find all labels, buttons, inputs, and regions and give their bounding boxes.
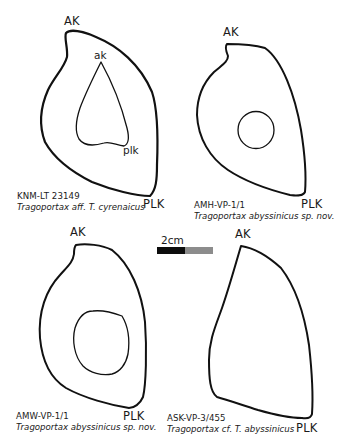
specimen-id-amw-vp-1-1: AMW-VP-1/1: [16, 412, 69, 421]
taxon-ask-vp-3-455: Tragoportax cf. T. abyssinicus: [167, 425, 294, 434]
scale-bar-black-segment: [157, 247, 185, 254]
specimen-id-amh-vp-1-1: AMH-VP-1/1: [194, 201, 245, 210]
label-plk-bottom-left: PLK: [123, 411, 144, 423]
label-plk-top-right: PLK: [301, 199, 322, 211]
label-ak-bottom-left: AK: [70, 227, 86, 239]
scale-bar-label: 2cm: [161, 235, 184, 246]
scale-bar-grey-segment: [185, 247, 213, 254]
inner-outline-amh-vp-1-1: [238, 112, 274, 149]
label-inner-plk: plk: [123, 145, 139, 156]
label-plk-top-left: PLK: [143, 199, 164, 211]
label-inner-ak: ak: [94, 50, 107, 61]
label-plk-bottom-right: PLK: [296, 423, 317, 435]
label-ak-top-right: AK: [223, 27, 239, 39]
label-ak-top-left: AK: [64, 16, 80, 28]
taxon-amw-vp-1-1: Tragoportax abyssinicus sp. nov.: [16, 423, 156, 432]
horn-core-cross-sections: [0, 0, 337, 448]
outline-amh-vp-1-1: [197, 44, 305, 196]
specimen-id-ask-vp-3-455: ASK-VP-3/455: [167, 414, 226, 423]
outline-ask-vp-3-455: [209, 246, 312, 418]
inner-outline-knm-lt-23149: [76, 62, 128, 146]
taxon-amh-vp-1-1: Tragoportax abyssinicus sp. nov.: [194, 212, 334, 221]
label-ak-bottom-right: AK: [235, 229, 251, 241]
inner-outline-amw-vp-1-1: [74, 311, 129, 375]
outline-amw-vp-1-1: [40, 244, 146, 408]
specimen-id-knm-lt-23149: KNM-LT 23149: [17, 192, 80, 201]
taxon-knm-lt-23149: Tragoportax aff. T. cyrenaicus: [17, 203, 145, 212]
